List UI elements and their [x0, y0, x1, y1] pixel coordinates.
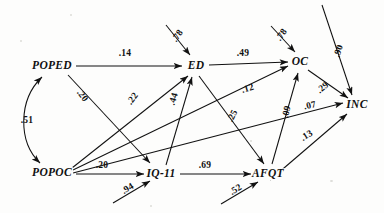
edge-ed-oc — [209, 62, 288, 65]
node-inc: INC — [345, 99, 368, 111]
edge-popoc-ed — [72, 76, 188, 168]
coef-iq11-afqt: .69 — [199, 161, 211, 171]
path-diagram: POPED POPOC ED IQ-11 OC AFQT INC .14 .20… — [0, 0, 384, 213]
node-poped: POPED — [31, 60, 73, 72]
coef-poped-ed: .14 — [119, 49, 131, 59]
edge-afqt-oc — [272, 73, 298, 164]
node-oc: OC — [291, 56, 310, 68]
node-afqt: AFQT — [251, 168, 285, 180]
path-arrows-canvas — [0, 0, 384, 213]
paper-speck — [250, 140, 252, 142]
paper-speck — [70, 14, 72, 16]
coef-poped-popoc: .51 — [21, 116, 33, 126]
node-iq11: IQ-11 — [146, 168, 177, 180]
coef-popoc-iq11: .20 — [96, 161, 108, 171]
node-popoc: POPOC — [31, 167, 73, 179]
paper-speck — [150, 205, 152, 207]
paper-speck — [20, 40, 22, 42]
paper-speck — [330, 180, 333, 182]
node-ed: ED — [187, 60, 206, 72]
coef-ed-oc: .49 — [237, 49, 249, 59]
